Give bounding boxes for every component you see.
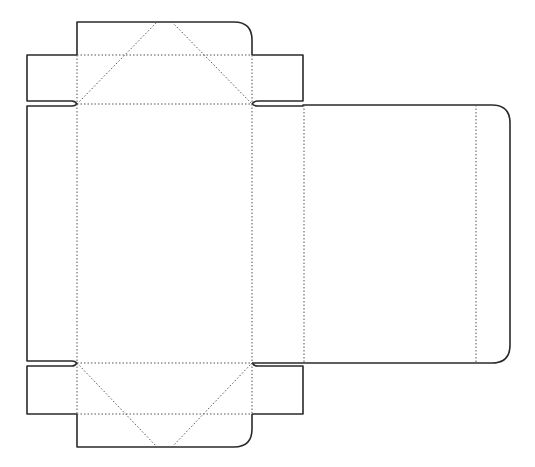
- body-outline-left: [27, 104, 77, 363]
- diagonal-bottom-left: [77, 363, 157, 447]
- diagonal-top-left: [77, 22, 157, 104]
- top-right-dust-flap: [252, 55, 303, 104]
- top-tuck-flap: [77, 22, 252, 55]
- back-panel-outline: [252, 104, 510, 363]
- top-left-dust-flap: [27, 55, 77, 104]
- bottom-right-dust-flap: [252, 363, 303, 414]
- diagonal-top-right: [172, 22, 252, 104]
- diagonal-bottom-right: [172, 363, 252, 447]
- bottom-tuck-flap: [77, 414, 252, 447]
- bottom-left-dust-flap: [27, 363, 77, 414]
- box-dieline-diagram: [0, 0, 535, 467]
